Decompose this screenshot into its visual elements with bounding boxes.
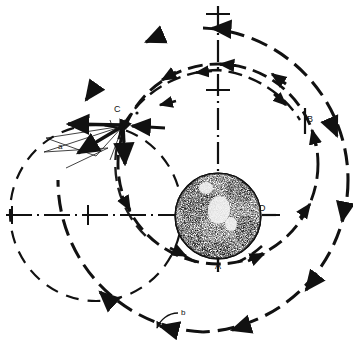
left-orbit-path — [10, 125, 182, 301]
orbit-diagram-svg — [0, 0, 353, 357]
velocity-vector-left — [68, 124, 123, 125]
velocity-vector-down — [123, 126, 125, 164]
inbound-orbit-arrow — [132, 126, 165, 128]
earth-globe — [171, 173, 262, 264]
label-point-b: B — [307, 115, 313, 124]
orbit-node-dot — [135, 111, 138, 114]
figure-canvas: A B C D a b — [0, 0, 353, 357]
label-orbit-a: a — [58, 143, 62, 151]
label-orbit-b: b — [181, 309, 185, 317]
label-point-d: D — [259, 204, 266, 213]
construction-line-6 — [66, 148, 108, 168]
label-point-a: A — [215, 262, 221, 271]
label-point-c: C — [114, 105, 121, 114]
